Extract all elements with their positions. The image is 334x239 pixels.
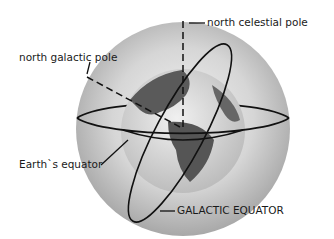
label-north-galactic-pole: north galactic pole	[19, 52, 117, 63]
label-north-celestial-pole: north celestial pole	[207, 17, 308, 28]
celestial-sphere-diagram	[0, 0, 334, 239]
leader-north-galactic	[87, 62, 90, 74]
label-galactic-equator: GALACTIC EQUATOR	[177, 205, 284, 216]
label-earths-equator: Earth`s equator	[19, 159, 102, 170]
